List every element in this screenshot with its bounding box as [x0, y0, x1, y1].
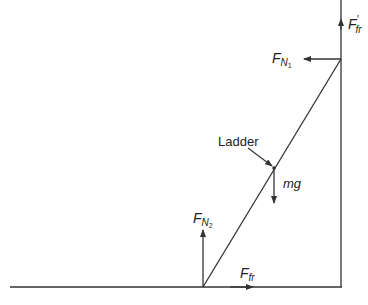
ladder-diagram: Ladder mg F′fr FN1 FN2 Ffr	[0, 0, 368, 305]
wall-friction-label: F′fr	[348, 14, 362, 35]
ladder-label: Ladder	[218, 134, 259, 149]
floor-normal-label: FN2	[193, 210, 213, 229]
weight-label: mg	[283, 176, 302, 191]
floor-friction-label: Ffr	[240, 265, 255, 283]
ladder-pointer-arrow	[248, 148, 272, 166]
ladder-line	[203, 59, 341, 287]
wall-normal-label: FN1	[272, 50, 292, 69]
